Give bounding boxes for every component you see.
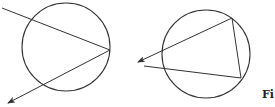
left-circle-diagram	[2, 3, 110, 103]
circle	[162, 10, 250, 98]
line-segment	[2, 8, 110, 50]
line-segment	[144, 66, 241, 78]
diagrams-layer	[2, 3, 250, 103]
figure-canvas	[0, 0, 275, 107]
line-segment	[232, 18, 241, 78]
arrow-line	[138, 18, 232, 62]
figure-caption: Fi	[262, 88, 274, 101]
right-circle-diagram	[138, 10, 250, 98]
circle	[22, 3, 110, 91]
